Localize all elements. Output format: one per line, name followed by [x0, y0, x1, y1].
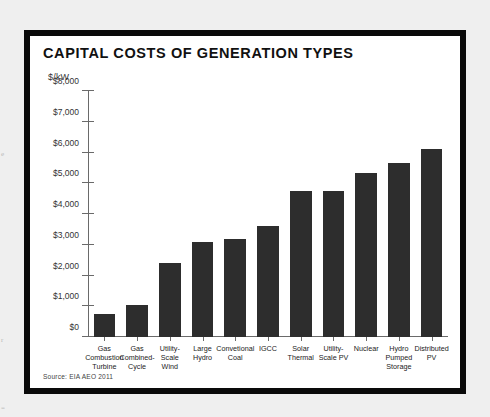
x-axis-tick: [333, 337, 334, 341]
chart-bar: [126, 305, 148, 337]
chart-bar: [94, 314, 116, 337]
chart-bar: [290, 191, 312, 337]
x-axis-tick: [268, 337, 269, 341]
bars-layer: [88, 91, 448, 337]
source-note: Source: EIA AEO 2011: [43, 373, 113, 380]
plot-area: $0$1,000$2,000$3,000$4,000$5,000$6,000$7…: [88, 91, 448, 337]
x-axis-tick: [203, 337, 204, 341]
x-axis-tick: [137, 337, 138, 341]
chart-figure-frame: CAPITAL COSTS OF GENERATION TYPES $/kW $…: [24, 30, 466, 394]
chart-bar: [355, 173, 377, 338]
x-axis-tick: [301, 337, 302, 341]
x-axis-tick: [104, 337, 105, 341]
chart-bar: [159, 263, 181, 337]
y-axis-tick-label: $4,000: [53, 199, 79, 209]
page-edge-fragment: =: [1, 404, 5, 412]
x-axis-tick: [432, 337, 433, 341]
x-axis-tick: [235, 337, 236, 341]
x-axis-tick: [170, 337, 171, 341]
x-axis-category-label: Distributed PV: [405, 344, 459, 362]
x-axis-tick: [366, 337, 367, 341]
chart-bar: [224, 239, 246, 337]
x-axis-tick: [399, 337, 400, 341]
page-edge-fragment: e: [1, 150, 4, 158]
y-axis-tick-label: $0: [70, 322, 79, 332]
y-axis-tick-label: $1,000: [53, 291, 79, 301]
y-axis-tick-label: $5,000: [53, 168, 79, 178]
chart-bar: [192, 242, 214, 337]
chart-title: CAPITAL COSTS OF GENERATION TYPES: [43, 45, 354, 61]
y-axis-tick-label: $7,000: [53, 107, 79, 117]
chart-bar: [323, 191, 345, 337]
y-axis-tick-label: $6,000: [53, 138, 79, 148]
y-axis-tick-label: $2,000: [53, 261, 79, 271]
chart-bar: [421, 149, 443, 337]
y-axis-tick-label: $8,000: [53, 76, 79, 86]
chart-figure: CAPITAL COSTS OF GENERATION TYPES $/kW $…: [30, 36, 460, 388]
y-axis-tick-label: $3,000: [53, 230, 79, 240]
page-edge-fragment: r: [1, 336, 3, 344]
chart-bar: [257, 226, 279, 337]
chart-bar: [388, 163, 410, 337]
